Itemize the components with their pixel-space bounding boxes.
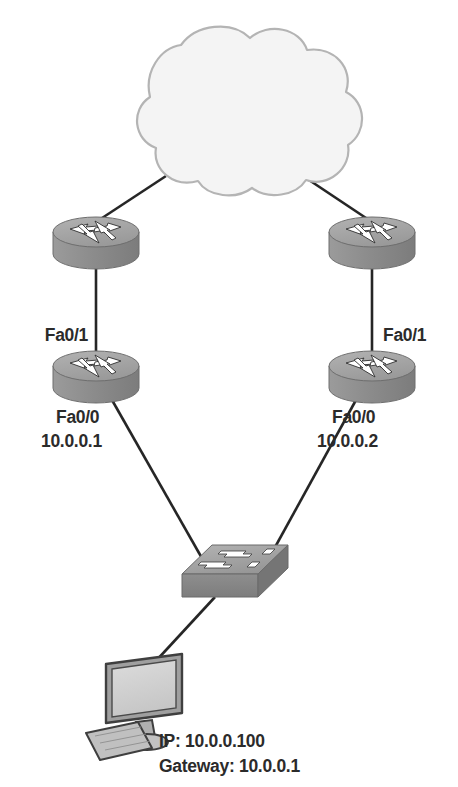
- keyboard: [86, 722, 152, 760]
- cloud-icon: [137, 27, 362, 196]
- wan-cloud[interactable]: [137, 27, 362, 196]
- link-switch-to-pc: [155, 597, 215, 662]
- router-left-uplink-label: Fa0/1: [45, 325, 89, 345]
- pc-ip-label: IP: 10.0.0.100: [159, 731, 265, 751]
- router-top-right[interactable]: [329, 217, 415, 269]
- topology-canvas: Fa0/1 Fa0/0 10.0.0.1 Fa0/1 Fa0/0 10.0.0.…: [0, 0, 458, 787]
- link-router-left-to-switch: [112, 400, 203, 560]
- link-cloud-to-router-top-left: [96, 176, 166, 222]
- router-right[interactable]: [329, 351, 415, 403]
- router-right-lan-label: Fa0/0: [332, 407, 376, 427]
- router-right-ip-label: 10.0.0.2: [317, 431, 378, 451]
- router-top-left[interactable]: [53, 217, 139, 269]
- switch-icon-front: [182, 574, 258, 597]
- monitor-screen: [112, 660, 176, 717]
- link-cloud-to-router-top-right: [303, 176, 372, 222]
- router-left[interactable]: [53, 351, 139, 403]
- router-left-lan-label: Fa0/0: [56, 407, 100, 427]
- network-diagram: Fa0/1 Fa0/0 10.0.0.1 Fa0/1 Fa0/0 10.0.0.…: [0, 0, 458, 787]
- router-left-ip-label: 10.0.0.1: [41, 431, 102, 451]
- router-right-uplink-label: Fa0/1: [383, 325, 427, 345]
- pc-gateway-label: Gateway: 10.0.0.1: [159, 756, 300, 776]
